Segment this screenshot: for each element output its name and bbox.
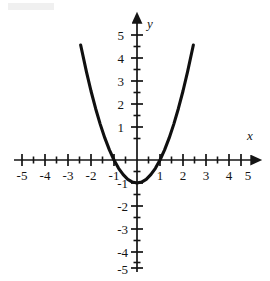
y-tick-label: -2: [117, 199, 128, 214]
x-tick-label: 3: [203, 168, 210, 183]
y-tick-label: 4: [118, 51, 125, 66]
x-tick-label: 2: [180, 168, 187, 183]
x-axis: -5 -4 -3 -2 -1 1 2 3 4 5 x: [14, 128, 253, 183]
x-tick-label: -3: [63, 168, 74, 183]
x-axis-label: x: [246, 128, 253, 143]
x-tick-label: -5: [17, 168, 28, 183]
y-tick-label: 5: [118, 28, 125, 43]
y-axis: 5 4 3 2 1 -1 -2 -3 -4 -5 y: [117, 16, 153, 277]
y-tick-label: -5: [117, 262, 128, 277]
x-tick-label: -2: [86, 168, 97, 183]
x-tick-label: 5: [245, 168, 252, 183]
y-axis-label: y: [145, 16, 153, 31]
y-tick-label: -4: [117, 245, 128, 260]
coordinate-plane: -5 -4 -3 -2 -1 1 2 3 4 5 x: [0, 0, 270, 281]
y-tick-label: 3: [118, 74, 125, 89]
x-tick-label: -4: [40, 168, 51, 183]
y-tick-label: -3: [117, 222, 128, 237]
y-tick-label: 2: [118, 97, 125, 112]
x-tick-label: 1: [157, 168, 164, 183]
graph-figure: -5 -4 -3 -2 -1 1 2 3 4 5 x: [0, 0, 270, 281]
x-tick-label: 4: [226, 168, 233, 183]
y-tick-label: 1: [118, 120, 125, 135]
